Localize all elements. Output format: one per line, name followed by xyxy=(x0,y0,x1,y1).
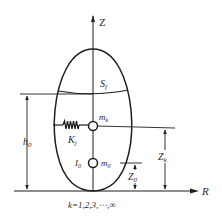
mode-index-label: k=1,2,3,⋯,∞ xyxy=(68,200,116,210)
z-axis-arrow-icon xyxy=(91,15,95,22)
spring xyxy=(53,121,89,129)
tank-sloshing-diagram: Z R Sf h0 Kj mk m0 I0 Z0 Zk k=1,2,3,⋯,∞ xyxy=(0,0,222,221)
sloshing-mass-level-line xyxy=(98,126,176,128)
fixed-mass-label: m0 xyxy=(101,158,111,169)
diagram-canvas: Z R Sf h0 Kj mk m0 I0 Z0 Zk k=1,2,3,⋯,∞ xyxy=(0,0,222,221)
z-axis-label: Z xyxy=(99,16,106,28)
sloshing-mass-label: mk xyxy=(99,112,109,123)
r-axis-label: R xyxy=(201,185,209,197)
fixed-mass-icon xyxy=(89,159,98,168)
r-axis xyxy=(14,189,199,194)
inertia-label: I0 xyxy=(74,158,81,169)
r-axis-arrow-icon xyxy=(190,189,199,194)
sloshing-mass-icon xyxy=(89,122,98,131)
free-surface-label: Sf xyxy=(100,78,108,91)
spring-label: Kj xyxy=(67,134,77,147)
liquid-height-label: h0 xyxy=(23,136,32,149)
